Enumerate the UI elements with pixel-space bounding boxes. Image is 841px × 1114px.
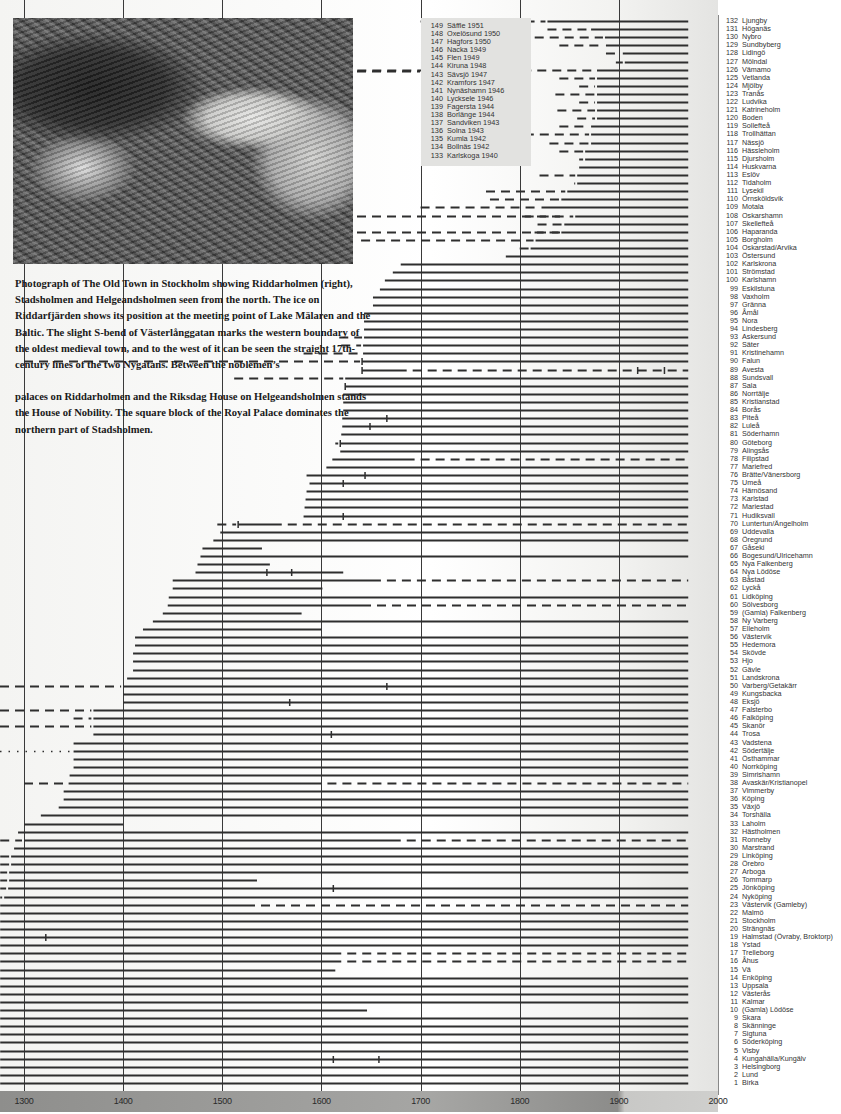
x-tick-1300: 1300 — [15, 1096, 34, 1106]
x-tick-1400: 1400 — [114, 1096, 133, 1106]
caption-paragraph-2: palaces on Riddarholmen and the Riksdag … — [15, 389, 375, 438]
aerial-photo-old-town-stockholm — [13, 18, 353, 264]
x-tick-1500: 1500 — [213, 1096, 232, 1106]
x-tick-1800: 1800 — [510, 1096, 529, 1106]
caption-paragraph-1: Photograph of The Old Town in Stockholm … — [15, 276, 375, 373]
x-tick-1600: 1600 — [312, 1096, 331, 1106]
x-tick-1900: 1900 — [609, 1096, 628, 1106]
legend-divider — [718, 15, 719, 1095]
town-label: 1Birka — [722, 1079, 758, 1087]
town-label: 16Åhus — [722, 957, 758, 965]
inset-town-label: 133Karlskoga 1940 — [428, 152, 504, 160]
inset-legend-list: 149Säffle 1951148Oxelösund 1950147Hagfor… — [428, 22, 504, 160]
photo-caption: Photograph of The Old Town in Stockholm … — [15, 276, 375, 438]
town-label: 19Halmstad (Övraby, Broktorp) — [722, 933, 833, 941]
x-tick-1700: 1700 — [411, 1096, 430, 1106]
x-tick-2000: 2000 — [709, 1096, 728, 1106]
